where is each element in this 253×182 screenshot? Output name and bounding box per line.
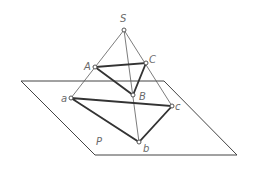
point-b-marker [137, 140, 141, 144]
label-b: b [143, 143, 149, 154]
label-b: B [139, 91, 146, 102]
point-a-marker [93, 65, 97, 69]
triangle-abc [71, 98, 172, 142]
plane-label: P [96, 136, 103, 147]
label-s: S [120, 13, 127, 24]
point-c-marker [144, 61, 148, 65]
point-a-marker [69, 96, 73, 100]
label-a: A [83, 61, 91, 72]
label-a: a [61, 93, 67, 104]
label-c: c [175, 101, 181, 112]
projection-diagram: SACBacbP [0, 0, 253, 182]
point-c-marker [170, 104, 174, 108]
ray-S-a [71, 30, 124, 98]
point-b-marker [131, 93, 135, 97]
label-c: C [149, 54, 156, 65]
triangles [71, 63, 172, 142]
point-s-marker [122, 28, 126, 32]
